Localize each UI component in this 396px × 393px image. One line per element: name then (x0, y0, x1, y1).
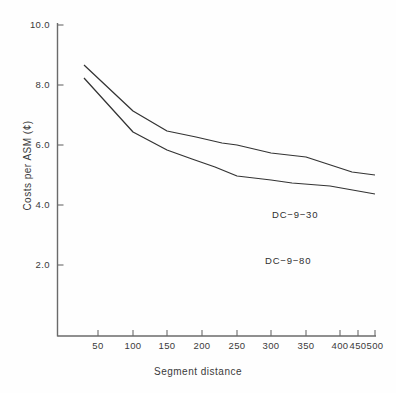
x-tick-label-250: 250 (222, 340, 252, 351)
axis-lines (58, 23, 377, 337)
chart-plot-area (0, 0, 396, 393)
series-label-dc-9-80: DC−9−80 (265, 255, 311, 266)
series-label-dc-9-30: DC−9−30 (272, 209, 318, 220)
x-tick-label-500: 500 (360, 340, 390, 351)
x-tick-label-150: 150 (152, 340, 182, 351)
series-line-dc-9-30 (84, 65, 375, 175)
y-axis-title: Costs per ASM (¢) (22, 106, 33, 226)
x-axis-ticks (98, 330, 375, 336)
y-tick-label-10: 10.0 (10, 19, 50, 30)
series-line-dc-9-80 (84, 78, 375, 194)
y-tick-label-2: 2.0 (10, 259, 50, 270)
x-tick-label-200: 200 (187, 340, 217, 351)
chart-figure: 10.0 8.0 6.0 4.0 2.0 50 100 150 200 250 … (0, 0, 396, 393)
x-tick-label-350: 350 (291, 340, 321, 351)
x-axis-title: Segment distance (0, 366, 396, 377)
y-axis-ticks (58, 25, 64, 265)
x-tick-label-300: 300 (256, 340, 286, 351)
x-tick-label-100: 100 (118, 340, 148, 351)
y-tick-label-8: 8.0 (10, 79, 50, 90)
x-tick-label-50: 50 (83, 340, 113, 351)
